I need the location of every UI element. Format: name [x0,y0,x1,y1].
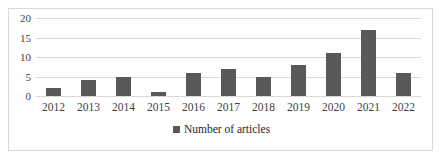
y-axis-tick-label: 5 [26,71,32,82]
legend-swatch-icon [173,126,180,133]
y-axis-tick-label: 20 [20,13,31,24]
chart-legend: Number of articles [9,123,434,136]
plot-area [36,18,421,96]
y-axis-tick-labels: 20 15 10 5 0 [9,18,34,96]
x-axis-tick-label: 2020 [316,99,351,115]
bar-slot [386,18,421,96]
x-axis-tick-label: 2012 [36,99,71,115]
bar[interactable] [221,69,236,96]
bar-slot [71,18,106,96]
bar-slot [106,18,141,96]
bar-slot [211,18,246,96]
bar[interactable] [186,73,201,96]
x-axis-tick-label: 2016 [176,99,211,115]
bar[interactable] [46,88,61,96]
x-axis-tick-label: 2013 [71,99,106,115]
bar[interactable] [326,53,341,96]
bar-slot [316,18,351,96]
x-axis-tick-label: 2015 [141,99,176,115]
y-axis-tick-label: 10 [20,52,31,63]
bar-slot [281,18,316,96]
bar[interactable] [361,30,376,96]
x-axis-tick-label: 2014 [106,99,141,115]
x-axis-tick-labels: 2012201320142015201620172018201920202021… [36,99,421,115]
bar-slot [246,18,281,96]
bar[interactable] [81,80,96,96]
bar[interactable] [116,77,131,97]
y-axis-tick-label: 0 [26,91,32,102]
bar-slot [36,18,71,96]
bar[interactable] [291,65,306,96]
x-axis-tick-label: 2017 [211,99,246,115]
bar-slot [141,18,176,96]
axis-baseline [36,96,421,97]
bar[interactable] [396,73,411,96]
x-axis-tick-label: 2018 [246,99,281,115]
bar[interactable] [151,92,166,96]
bar[interactable] [256,77,271,97]
legend-item-label: Number of articles [184,123,270,136]
x-axis-tick-label: 2019 [281,99,316,115]
y-axis-tick-label: 15 [20,32,31,43]
bar-slot [176,18,211,96]
x-axis-tick-label: 2022 [386,99,421,115]
bar-series [36,18,421,96]
chart-container: 20 15 10 5 0 201220132014201520162017201… [8,8,433,151]
bar-slot [351,18,386,96]
x-axis-tick-label: 2021 [351,99,386,115]
